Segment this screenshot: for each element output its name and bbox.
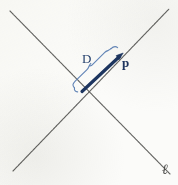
- brace-D-end-hook: [111, 47, 118, 49]
- vector-p-shaft: [82, 57, 120, 92]
- brace-D-start-hook: [74, 88, 77, 92]
- figure-canvas: [0, 0, 178, 185]
- line-second: [13, 9, 169, 171]
- geometry-figure: D p ℓ: [0, 0, 178, 185]
